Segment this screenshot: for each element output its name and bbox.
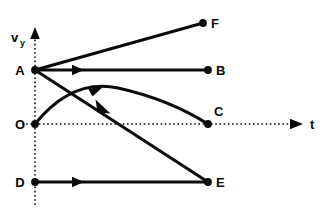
point-label-f: F xyxy=(211,16,219,31)
segment-a-to-e xyxy=(35,70,208,182)
point-dot-d xyxy=(31,178,39,186)
point-dot-a xyxy=(31,66,39,74)
point-labels-group: A B C D E F O xyxy=(15,16,225,190)
parabolic-arc-group xyxy=(35,86,208,124)
segments-group xyxy=(35,23,208,187)
axis-label-t: t xyxy=(310,117,315,132)
point-dot-e xyxy=(204,178,212,186)
segment-a-to-e-arrowhead xyxy=(96,100,111,114)
point-label-e: E xyxy=(216,175,225,190)
axis-label-vy: v xyxy=(11,30,19,45)
vertical-axis-arrowhead xyxy=(30,27,40,39)
axes-group xyxy=(22,27,303,205)
point-label-c: C xyxy=(214,104,224,119)
point-dot-o xyxy=(31,120,39,128)
point-dot-b xyxy=(204,66,212,74)
point-dot-f xyxy=(199,19,207,27)
axis-label-vy-subscript: y xyxy=(20,38,25,48)
segment-a-to-b-arrowhead xyxy=(72,65,84,75)
segment-a-to-f xyxy=(35,23,203,70)
horizontal-axis-arrowhead xyxy=(290,119,303,129)
point-label-a: A xyxy=(15,63,25,78)
point-dot-c xyxy=(204,120,212,128)
velocity-time-diagram: A B C D E F O v y t xyxy=(0,0,332,223)
curve-o-to-c xyxy=(35,86,208,124)
point-label-o: O xyxy=(15,117,25,132)
curve-rising-arrowhead xyxy=(88,87,103,97)
point-label-b: B xyxy=(216,63,225,78)
axis-labels-group: v y t xyxy=(11,30,315,132)
segment-d-to-e-arrowhead xyxy=(72,177,84,187)
point-label-d: D xyxy=(15,175,24,190)
